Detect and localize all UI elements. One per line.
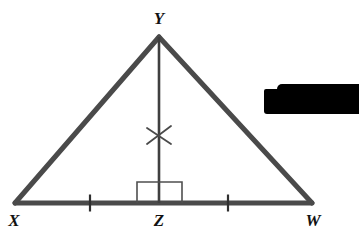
diagram-canvas: Y X Z W [0, 0, 359, 250]
redacted-text-bar [264, 89, 359, 114]
vertex-label-x: X [8, 212, 19, 229]
triangle-side-xy [15, 37, 159, 203]
vertex-label-z: Z [154, 212, 164, 229]
triangle-side-yw [159, 37, 312, 203]
vertex-label-w: W [305, 212, 320, 229]
vertex-label-y: Y [154, 10, 164, 27]
